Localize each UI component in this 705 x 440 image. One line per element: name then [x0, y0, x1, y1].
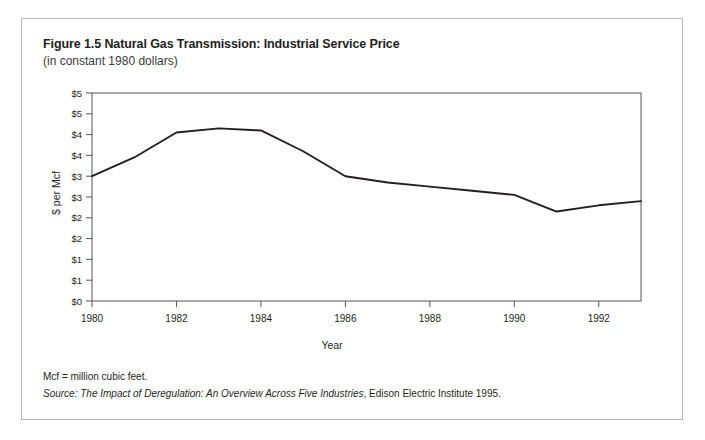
x-axis-tick-label: 1984	[250, 313, 273, 324]
source-label: Source:	[43, 388, 77, 399]
line-chart-svg: $0$1$1$2$2$3$3$4$4$5$5198019821984198619…	[22, 19, 684, 359]
y-axis-tick-label: $1	[71, 254, 82, 265]
x-axis-tick-label: 1990	[503, 313, 526, 324]
footnote-units: Mcf = million cubic feet.	[43, 371, 147, 382]
footnote-source: Source: The Impact of Deregulation: An O…	[43, 388, 501, 399]
plot-frame	[92, 93, 641, 301]
chart-plot-area: $0$1$1$2$2$3$3$4$4$5$5198019821984198619…	[22, 19, 684, 421]
y-axis-tick-label: $3	[71, 192, 82, 203]
y-axis-tick-label: $2	[71, 212, 82, 223]
figure-card: Figure 1.5 Natural Gas Transmission: Ind…	[21, 18, 683, 420]
x-axis-tick-label: 1988	[419, 313, 442, 324]
y-axis-tick-label: $4	[71, 150, 82, 161]
data-line-industrial-service-price	[92, 128, 641, 211]
x-axis-title: Year	[22, 339, 642, 351]
y-axis-tick-label: $3	[71, 171, 82, 182]
x-axis-tick-label: 1986	[334, 313, 357, 324]
y-axis-tick-label: $1	[71, 275, 82, 286]
y-axis-title: $ per Mcf	[50, 148, 62, 238]
x-axis-tick-label: 1980	[81, 313, 104, 324]
x-axis-tick-label: 1982	[165, 313, 188, 324]
source-title: The Impact of Deregulation: An Overview …	[80, 388, 363, 399]
y-axis-tick-label: $0	[71, 296, 82, 307]
y-axis-tick-label: $5	[71, 108, 82, 119]
x-axis-tick-label: 1992	[588, 313, 611, 324]
y-axis-tick-label: $4	[71, 129, 82, 140]
y-axis-tick-label: $5	[71, 88, 82, 99]
source-publisher: , Edison Electric Institute 1995.	[364, 388, 501, 399]
y-axis-tick-label: $2	[71, 233, 82, 244]
